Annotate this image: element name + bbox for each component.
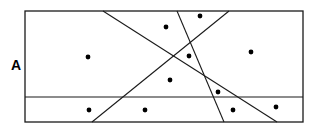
data-point <box>249 50 254 55</box>
data-point <box>87 108 92 113</box>
region-label-a: A <box>11 58 21 72</box>
data-point <box>198 14 203 19</box>
data-point <box>274 105 279 110</box>
data-point <box>187 54 192 59</box>
diagram-svg <box>0 0 315 133</box>
diagram-canvas: A <box>0 0 315 133</box>
data-point <box>86 55 91 60</box>
data-point <box>164 25 169 30</box>
data-point <box>231 108 236 113</box>
data-point <box>216 90 221 95</box>
data-point <box>143 108 148 113</box>
data-point <box>168 78 173 83</box>
